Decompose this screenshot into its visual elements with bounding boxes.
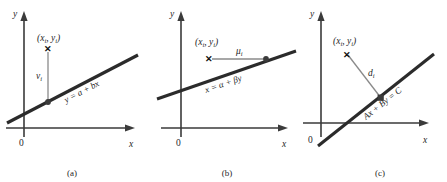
panel-b-fitted-line [157,51,296,99]
panel-b-caption: (b) [222,168,233,178]
panel-c-point-label: (xi, yi) [333,36,356,47]
figure-three-regression-panels: y x 0 ✕ (xi, yi) vi y = a + bx (a) y x 0 [0,0,447,182]
panel-b-y-axis-label: y [169,9,175,19]
panel-b-origin-label: 0 [176,138,181,148]
panel-a-y-axis [20,11,27,137]
panel-b: y x 0 ✕ (xi, yi) μi x = α + βy (b) [157,9,296,178]
panel-c-line-equation: Ax + By = C [360,84,404,122]
panel-c-caption: (c) [375,168,385,178]
panel-a-line-point-marker [45,99,51,105]
panel-c-deviation-segment [348,55,381,98]
panel-a: y x 0 ✕ (xi, yi) vi y = a + bx (a) [6,9,138,178]
panel-b-deviation-label: μi [235,46,243,57]
panel-a-deviation-label: vi [36,71,42,82]
panel-c-x-axis-label: x [422,135,428,145]
panel-c-deviation-label: di [368,68,375,79]
panel-b-x-axis [161,124,288,131]
panel-b-data-point-marker: ✕ [205,54,213,64]
panel-c-data-point-marker: ✕ [343,50,351,60]
panel-c-origin-label: 0 [308,135,313,145]
panel-a-origin-label: 0 [19,138,24,148]
panel-b-point-label: (xi, yi) [195,37,218,48]
panel-a-point-label: (xi, yi) [37,33,60,44]
panel-a-caption: (a) [67,168,77,178]
panel-a-x-axis-label: x [128,139,134,149]
panel-c: y x 0 ✕ (xi, yi) di Ax + By = C (c) [303,9,434,178]
panel-b-line-point-marker [263,56,269,62]
panel-c-y-axis-label: y [309,9,315,19]
panel-a-data-point-marker: ✕ [44,44,52,54]
panel-a-y-axis-label: y [12,9,18,19]
panel-a-fitted-line [7,55,138,123]
panel-b-x-axis-label: x [281,139,287,149]
panel-c-fitted-line [318,54,434,146]
panel-c-y-axis [317,11,324,137]
panel-b-y-axis [177,11,184,137]
panel-a-x-axis [6,124,135,131]
